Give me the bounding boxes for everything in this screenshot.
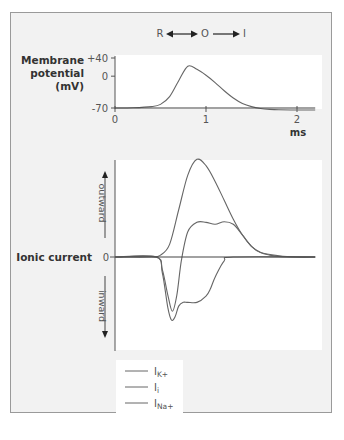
arrowhead-right-icon [233,31,240,38]
state-r: R [157,28,164,39]
arrow-down-icon [102,331,108,338]
arrow-up-icon [102,171,108,178]
state-diagram: R O I [157,28,246,39]
top-xlabel: ms [290,127,306,138]
top-xtick-label-0: 0 [112,114,118,125]
outward-label: outward [97,184,108,223]
top-plot-area [115,55,322,109]
state-o: O [201,28,209,39]
bottom-ylabel: Ionic current [16,251,92,263]
state-i: I [243,28,246,39]
figure-svg: R O I Membrane potential (mV) +400-70012… [0,0,344,440]
top-ytick-label-2: -70 [92,103,108,114]
inward-label: inward [97,290,108,322]
zero-tick-label: 0 [103,252,109,263]
top-ylabel-line3: (mV) [55,80,84,92]
top-ytick-label-1: 0 [102,71,108,82]
top-ylabel-line1: Membrane [21,54,84,66]
top-ylabel-line2: potential [30,67,84,79]
arrowhead-right-icon [191,31,198,38]
top-xtick-label-1: 1 [203,114,209,125]
arrowhead-left-icon [166,31,173,38]
top-ytick-label-0: +40 [87,53,108,64]
top-xtick-label-2: 2 [294,114,300,125]
